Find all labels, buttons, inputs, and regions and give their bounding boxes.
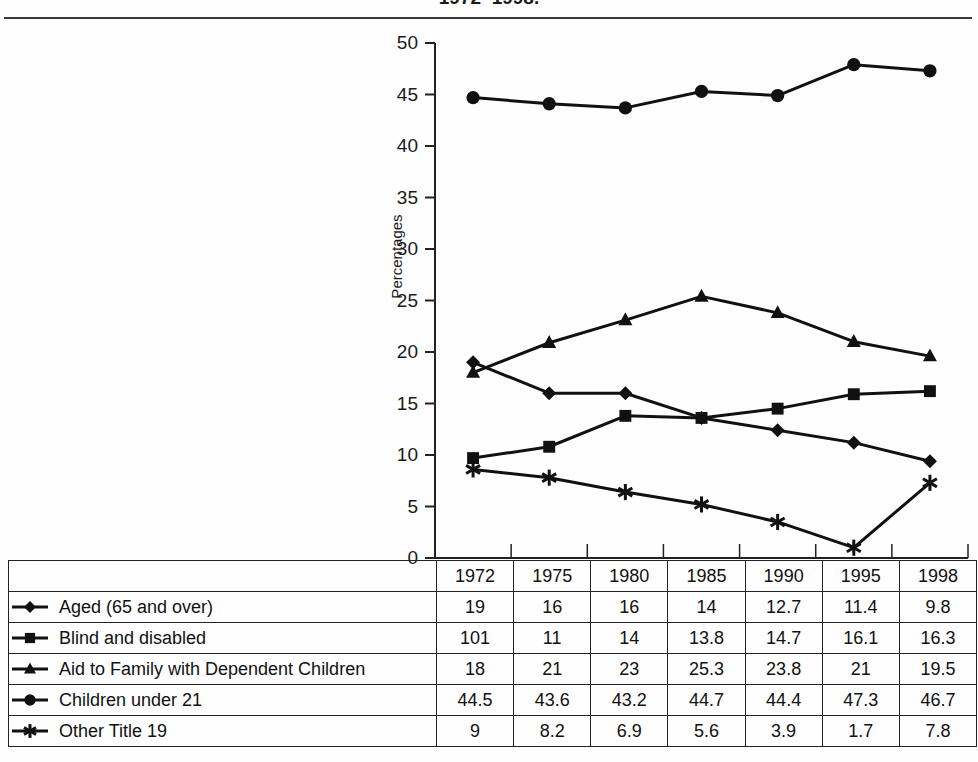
table-cell: 6.9 [591,716,668,747]
table-corner-cell [9,561,437,592]
table-cell: 1.7 [822,716,899,747]
square-marker-icon [924,385,936,397]
table-row: Aged (65 and over)1916161412.711.49.8 [9,592,977,623]
chart-page: 1972–1998. Percentages 05101520253035404… [0,0,978,762]
circle-marker-icon [543,97,556,110]
table-cell: 21 [822,654,899,685]
diamond-marker-icon [24,601,36,613]
table-row: Children under 2144.543.643.244.744.447.… [9,685,977,716]
table-cell: 43.2 [591,685,668,716]
table-cell: 14 [668,592,745,623]
table-cell: 25.3 [668,654,745,685]
square-marker-icon [9,628,51,648]
table-row: Aid to Family with Dependent Children182… [9,654,977,685]
table-year-header: 1990 [745,561,822,592]
table-cell: 5.6 [668,716,745,747]
table-cell: 23 [591,654,668,685]
chart-series-5 [466,461,937,555]
chart-plot-svg [0,0,978,580]
table-cell: 9.8 [899,592,976,623]
table-cell: 16 [591,592,668,623]
table-cell: 14 [591,623,668,654]
table-row: Blind and disabled101111413.814.716.116.… [9,623,977,654]
table-cell: 13.8 [668,623,745,654]
diamond-marker-icon [923,454,937,468]
legend-label: Aged (65 and over) [59,597,213,618]
chart-data-table: 1972197519801985199019951998 Aged (65 an… [8,560,977,747]
star-marker-icon [9,721,51,741]
diamond-marker-icon [847,436,861,450]
square-marker-icon [696,412,708,424]
circle-marker-icon [771,89,784,102]
table-cell: 19.5 [899,654,976,685]
table-year-header: 1980 [591,561,668,592]
circle-marker-icon [9,690,51,710]
legend-label: Other Title 19 [59,721,167,742]
diamond-marker-icon [618,386,632,400]
circle-marker-icon [619,101,632,114]
diamond-marker-icon [542,386,556,400]
triangle-marker-icon [9,659,51,679]
legend-entry[interactable]: Children under 21 [9,685,437,716]
square-marker-icon [772,403,784,415]
table-cell: 47.3 [822,685,899,716]
circle-marker-icon [24,694,35,705]
table-year-header: 1972 [437,561,514,592]
table-year-header: 1998 [899,561,976,592]
table-cell: 18 [437,654,514,685]
circle-marker-icon [847,58,860,71]
table-cell: 7.8 [899,716,976,747]
table-year-header: 1985 [668,561,745,592]
circle-marker-icon [695,85,708,98]
table-cell: 21 [514,654,591,685]
chart-series-1 [466,355,937,468]
triangle-marker-icon [695,289,709,302]
square-marker-icon [25,633,35,643]
line-chart: Percentages 05101520253035404550 [0,0,978,580]
table-cell: 11.4 [822,592,899,623]
table-cell: 12.7 [745,592,822,623]
table-cell: 44.4 [745,685,822,716]
table-header-row: 1972197519801985199019951998 [9,561,977,592]
legend-entry[interactable]: Blind and disabled [9,623,437,654]
series-line [473,296,930,372]
table-cell: 16.1 [822,623,899,654]
table-cell: 3.9 [745,716,822,747]
legend-entry[interactable]: Other Title 19 [9,716,437,747]
legend-label: Children under 21 [59,690,202,711]
square-marker-icon [848,388,860,400]
table-cell: 9 [437,716,514,747]
table-row: Other Title 1998.26.95.63.91.77.8 [9,716,977,747]
table-year-header: 1995 [822,561,899,592]
legend-label: Aid to Family with Dependent Children [59,659,365,680]
table-cell: 11 [514,623,591,654]
circle-marker-icon [466,91,479,104]
legend-label: Blind and disabled [59,628,206,649]
table-year-header: 1975 [514,561,591,592]
table-cell: 14.7 [745,623,822,654]
square-marker-icon [543,441,555,453]
table-cell: 23.8 [745,654,822,685]
table-cell: 16 [514,592,591,623]
circle-marker-icon [923,64,936,77]
chart-series-3 [466,289,937,378]
table-cell: 16.3 [899,623,976,654]
diamond-marker-icon [9,597,51,617]
legend-entry[interactable]: Aid to Family with Dependent Children [9,654,437,685]
square-marker-icon [619,410,631,422]
table-cell: 46.7 [899,685,976,716]
chart-series-4 [466,58,936,115]
table-body: Aged (65 and over)1916161412.711.49.8Bli… [9,592,977,747]
chart-data-table-wrapper: 1972197519801985199019951998 Aged (65 an… [8,560,968,747]
table-cell: 43.6 [514,685,591,716]
diamond-marker-icon [771,423,785,437]
table-cell: 19 [437,592,514,623]
table-cell: 101 [437,623,514,654]
legend-entry[interactable]: Aged (65 and over) [9,592,437,623]
table-cell: 8.2 [514,716,591,747]
table-cell: 44.5 [437,685,514,716]
table-cell: 44.7 [668,685,745,716]
